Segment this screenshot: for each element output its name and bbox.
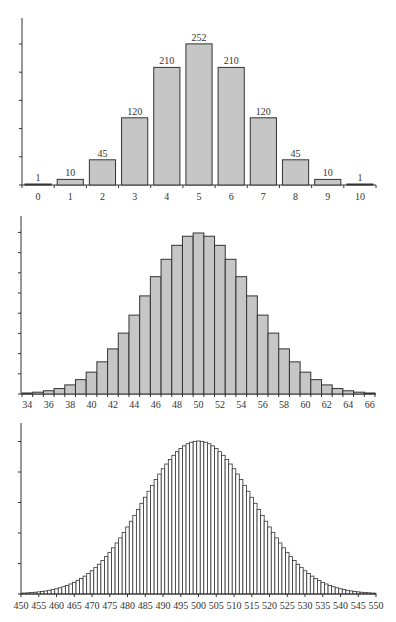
bar [296,564,300,594]
bar [101,561,105,594]
bar [332,587,336,594]
bar-value-label: 1 [36,172,41,183]
bar [94,568,98,594]
bar [339,589,343,594]
bar [335,588,339,594]
bar-value-label: 120 [127,106,142,117]
bar [310,576,314,594]
bar [250,497,254,594]
bar [236,277,247,394]
x-tick-label: 485 [138,600,153,611]
bar [246,491,250,594]
x-tick-label: 9 [325,191,330,202]
x-tick-label: 540 [333,600,348,611]
x-tick-label: 545 [351,600,366,611]
x-tick-label: 42 [108,399,118,410]
bar [119,538,123,594]
bar [129,315,140,394]
bar [147,491,151,594]
bar [122,533,126,594]
bar-value-label: 1 [357,172,362,183]
bar [215,245,226,394]
bar [126,527,130,594]
bar [207,444,211,594]
bar [354,392,365,394]
bar [75,380,86,394]
x-tick-label: 52 [215,399,225,410]
bar [243,485,247,594]
bar [343,391,354,394]
bar [89,160,115,185]
bar [300,372,311,394]
bar-value-label: 210 [159,55,174,66]
x-tick-label: 0 [36,191,41,202]
bar [328,585,332,594]
bar [229,464,233,594]
bar [150,277,161,394]
bar [65,585,69,594]
x-tick-label: 60 [300,399,310,410]
bar [321,582,325,594]
bar [118,333,129,394]
bar-value-label: 252 [192,32,207,43]
x-tick-label: 56 [258,399,268,410]
bar-value-label: 45 [291,148,301,159]
bar [69,584,73,594]
bar [161,469,165,594]
bar [129,521,133,594]
bar [48,590,52,594]
x-tick-label: 36 [44,399,54,410]
bar [300,568,304,594]
x-tick-label: 450 [14,600,29,611]
bar [257,509,261,594]
bar [364,393,375,394]
bar [154,67,180,185]
bar [268,527,272,594]
bar [342,590,346,594]
x-tick-label: 550 [369,600,384,611]
bar-value-label: 45 [97,148,107,159]
chart-binomial-n100: 3436384042444648505254565860626466 [18,216,376,410]
bar [72,582,76,594]
bar [218,67,244,185]
bar [58,588,62,594]
x-tick-label: 50 [194,399,204,410]
bar [225,259,236,394]
bar [204,236,215,394]
bar [311,380,322,394]
x-tick-label: 8 [293,191,298,202]
bar [250,118,276,185]
x-tick-label: 470 [85,600,100,611]
bar [214,448,218,594]
bar [179,448,183,594]
bar [54,389,65,394]
bar [225,459,229,594]
bar [172,245,183,394]
bar-value-label: 210 [224,55,239,66]
bar [322,385,333,394]
bar [186,44,212,185]
bar [165,464,169,594]
bar [193,441,197,594]
bar [172,455,176,594]
bar [182,236,193,394]
x-tick-label: 2 [100,191,105,202]
bar [97,362,108,394]
bar [303,571,307,594]
bar [97,564,101,594]
bar [168,459,172,594]
bar [90,571,94,594]
bar [76,581,80,594]
bar [140,503,144,594]
x-tick-label: 40 [87,399,97,410]
x-tick-label: 4 [164,191,169,202]
x-tick-label: 64 [343,399,353,410]
bar [158,474,162,594]
x-tick-label: 1 [68,191,73,202]
x-tick-label: 34 [22,399,32,410]
bar [200,441,204,594]
bar [22,393,33,394]
bar [186,444,190,594]
bar [289,362,300,394]
bar [285,552,289,594]
